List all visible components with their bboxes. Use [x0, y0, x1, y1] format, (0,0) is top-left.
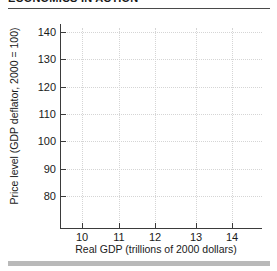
x-axis-tick — [155, 223, 156, 228]
gridline-vertical — [119, 28, 121, 228]
gridline-vertical — [196, 28, 198, 228]
y-axis-tick — [61, 32, 66, 33]
y-axis-tick-label: 120 — [22, 81, 56, 93]
x-axis-tick-label: 12 — [140, 231, 170, 243]
y-axis-title: Price level (GDP deflator, 2000 = 100) — [8, 26, 20, 206]
x-axis-tick-label: 13 — [181, 231, 211, 243]
y-axis-tick-label: 80 — [22, 190, 56, 202]
footer-bar — [8, 261, 270, 266]
y-axis-tick-label: 140 — [22, 26, 56, 38]
y-axis-tick-label: 100 — [22, 135, 56, 147]
x-axis-tick — [232, 223, 233, 228]
y-axis-tick — [61, 169, 66, 170]
y-axis-line — [60, 24, 61, 228]
x-axis-tick — [196, 223, 197, 228]
y-axis-tick — [61, 114, 66, 115]
y-axis-tick-label: 90 — [22, 163, 56, 175]
y-axis-tick-label: 130 — [22, 53, 56, 65]
x-axis-tick-label: 11 — [104, 231, 134, 243]
x-axis-tick-label: 10 — [67, 231, 97, 243]
gridline-vertical — [155, 28, 157, 228]
gridline-vertical — [232, 28, 234, 228]
y-axis-tick — [61, 196, 66, 197]
y-axis-tick-label: 110 — [22, 108, 56, 120]
plot-area — [61, 28, 262, 228]
y-axis-tick — [61, 141, 66, 142]
chart-figure: 140 130 120 110 100 90 80 10 11 12 13 14… — [0, 0, 277, 271]
x-axis-tick-label: 14 — [217, 231, 247, 243]
x-axis-tick — [82, 223, 83, 228]
y-axis-tick — [61, 87, 66, 88]
gridline-vertical — [82, 28, 84, 228]
y-axis-tick — [61, 59, 66, 60]
x-axis-title: Real GDP (trillions of 2000 dollars) — [40, 243, 272, 255]
x-axis-line — [60, 228, 262, 229]
x-axis-tick — [119, 223, 120, 228]
